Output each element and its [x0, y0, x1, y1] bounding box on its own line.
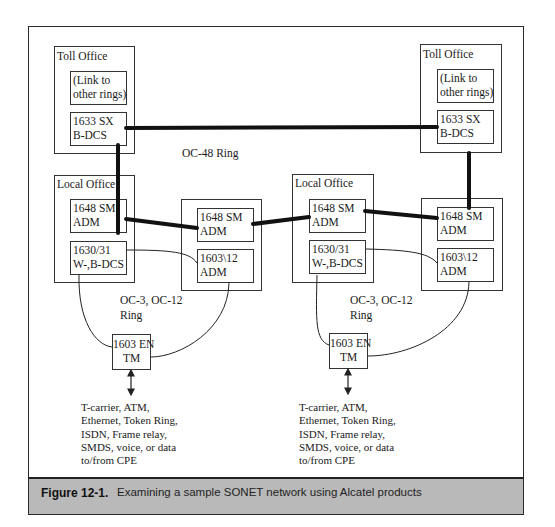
- sm-adm-box-local-right: 1648 SM ADM: [309, 199, 366, 233]
- toll-office-left-title: Toll Office: [57, 50, 107, 63]
- local-office-left-title: Local Office: [57, 178, 115, 191]
- sx-bdcs-box-right: 1633 SX B-DCS: [437, 110, 494, 144]
- oc3-oc12-ring-label-right: OC-3, OC-12 Ring: [350, 293, 413, 323]
- oc48-ring-label: OC-48 Ring: [182, 147, 239, 160]
- figure-number: Figure 12-1.: [41, 486, 108, 500]
- figure-caption-bar: Figure 12-1. Examining a sample SONET ne…: [28, 477, 524, 515]
- toll-office-right-title: Toll Office: [423, 48, 473, 61]
- sm-adm-box-site-right: 1648 SM ADM: [437, 207, 494, 241]
- link-box-left: (Link to other rings): [70, 71, 127, 105]
- adm-1603-box-site-right: 1603\12 ADM: [437, 248, 494, 282]
- local-office-right-title: Local Office: [295, 177, 353, 190]
- cpe-services-right: T-carrier, ATM, Ethernet, Token Ring, IS…: [299, 401, 396, 467]
- sm-adm-box-local-left: 1648 SM ADM: [70, 199, 127, 233]
- adm-1603-box-site-left: 1603\12 ADM: [197, 249, 254, 283]
- sm-adm-box-site-left: 1648 SM ADM: [197, 208, 254, 242]
- oc3-oc12-ring-label-left: OC-3, OC-12 Ring: [120, 293, 183, 323]
- wb-dcs-box-local-left: 1630/31 W-,B-DCS: [70, 241, 127, 275]
- en-tm-box-left: 1603 EN TM: [112, 334, 151, 370]
- link-box-right: (Link to other rings): [437, 69, 494, 103]
- wb-dcs-box-local-right: 1630/31 W-,B-DCS: [309, 240, 366, 274]
- sx-bdcs-box-left: 1633 SX B-DCS: [70, 112, 127, 146]
- cpe-services-left: T-carrier, ATM, Ethernet, Token Ring, IS…: [81, 401, 178, 467]
- figure-caption: Examining a sample SONET network using A…: [117, 486, 422, 498]
- en-tm-box-right: 1603 EN TM: [329, 333, 368, 369]
